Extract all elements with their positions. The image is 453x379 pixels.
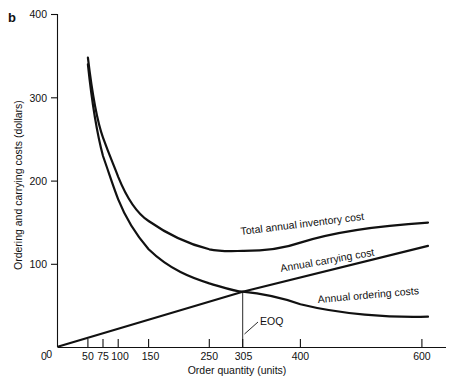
y-axis-ticks [51, 15, 58, 265]
y-ticklabel-100: 100 [29, 258, 47, 270]
y-axis-title: Ordering and carrying costs (dollars) [12, 100, 24, 270]
x-ticklabel-600: 600 [413, 350, 431, 362]
y-axis-tick-labels: 400 300 200 100 0 [29, 8, 52, 360]
x-axis-tick-labels: 0 50 75 100 150 250 305 400 600 [41, 350, 431, 362]
panel-label: b [8, 10, 16, 25]
x-ticklabel-50: 50 [82, 350, 94, 362]
x-ticklabel-400: 400 [292, 350, 310, 362]
chart-figure: b 400 300 200 100 0 Ordering and carryin… [0, 0, 453, 379]
eoq-leader-line [245, 322, 259, 334]
y-ticklabel-200: 200 [29, 175, 47, 187]
y-ticklabel-300: 300 [29, 92, 47, 104]
x-ticklabel-250: 250 [201, 350, 219, 362]
eoq-annotation-label: EOQ [260, 315, 283, 327]
x-ticklabel-0: 0 [41, 350, 47, 362]
x-axis-title: Order quantity (units) [188, 364, 287, 376]
label-total-annual-inventory-cost: Total annual inventory cost [240, 210, 365, 237]
y-ticklabel-400: 400 [29, 8, 47, 20]
x-ticklabel-305: 305 [235, 350, 253, 362]
x-ticklabel-150: 150 [142, 350, 160, 362]
x-axis-ticks [88, 339, 422, 348]
x-ticklabel-75: 75 [97, 350, 109, 362]
x-ticklabel-100: 100 [111, 350, 129, 362]
label-annual-ordering-costs: Annual ordering costs [317, 284, 419, 305]
curve-annual-ordering-costs [88, 64, 428, 317]
y-ticklabel-0: 0 [46, 348, 52, 360]
eoq-cost-chart: b 400 300 200 100 0 Ordering and carryin… [0, 0, 453, 379]
